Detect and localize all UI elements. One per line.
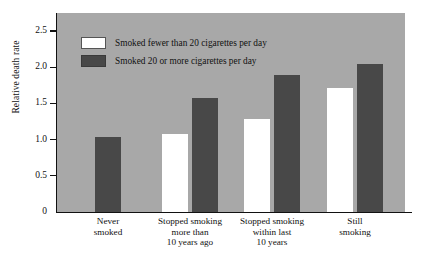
- legend-item: Smoked fewer than 20 cigarettes per day: [81, 36, 267, 49]
- bar-dark: [357, 64, 383, 212]
- y-axis-tick-label: 2.0: [3, 62, 47, 72]
- legend-swatch-light: [81, 37, 106, 49]
- y-axis-tick: [50, 67, 57, 68]
- y-axis-tick-label: 1.5: [3, 98, 47, 108]
- bar-chart: Relative death rate 00.51.01.52.02.5 Smo…: [0, 0, 422, 258]
- bar-light: [162, 134, 188, 212]
- y-axis-line: [56, 13, 57, 212]
- bar-light: [327, 88, 353, 212]
- legend-label: Smoked fewer than 20 cigarettes per day: [115, 38, 267, 48]
- y-axis-tick: [50, 30, 57, 31]
- x-axis-label: Stillsmoking: [300, 216, 410, 237]
- y-axis-tick-label: 2.5: [3, 26, 47, 36]
- bar-dark: [274, 75, 300, 212]
- legend-swatch-dark: [81, 55, 106, 67]
- y-axis-tick-label: 0.5: [3, 171, 47, 181]
- y-axis-tick: [50, 175, 57, 176]
- bar-dark: [192, 98, 218, 212]
- legend-item: Smoked 20 or more cigarettes per day: [81, 54, 267, 67]
- y-axis-tick-label: 1.0: [3, 135, 47, 145]
- y-axis-tick: [50, 139, 57, 140]
- y-axis-tick: [50, 103, 57, 104]
- legend-label: Smoked 20 or more cigarettes per day: [115, 56, 256, 66]
- x-axis-label-line: 10 years: [217, 237, 327, 248]
- y-axis-tick-label: 0: [3, 207, 47, 217]
- x-axis-label-line: smoking: [300, 227, 410, 238]
- x-axis-label-line: Still: [300, 216, 410, 227]
- bar-dark: [95, 137, 121, 212]
- bar-light: [244, 119, 270, 212]
- legend: Smoked fewer than 20 cigarettes per day …: [81, 36, 267, 72]
